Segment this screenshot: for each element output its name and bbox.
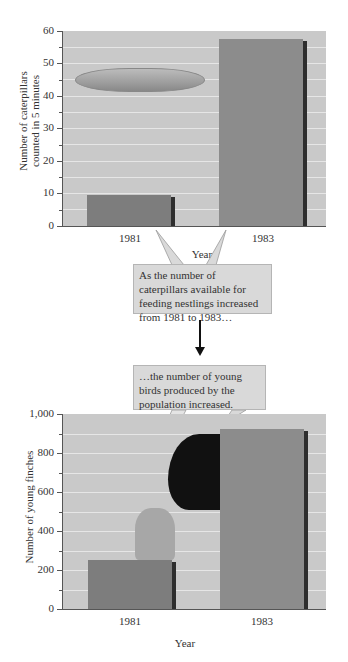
bottom-x-axis-title: Year — [155, 637, 215, 649]
down-arrow-icon — [199, 320, 201, 348]
callout-caterpillars: As the number of caterpillars available … — [133, 264, 272, 314]
bottom-tick-0: 0 — [24, 602, 54, 614]
bottom-bar-1983 — [220, 429, 304, 609]
bottom-x-label-1981: 1981 — [100, 615, 160, 627]
bottom-y-axis-label: Number of young finches — [23, 442, 37, 572]
bottom-bar-1981 — [88, 560, 172, 609]
arrowhead-icon — [195, 347, 205, 356]
bottom-tick-1000: 1,000 — [24, 407, 54, 419]
bottom-x-label-1983: 1983 — [232, 615, 292, 627]
callout-young-birds: …the number of young birds produced by t… — [133, 365, 266, 410]
nestlings-illustration — [135, 508, 175, 560]
